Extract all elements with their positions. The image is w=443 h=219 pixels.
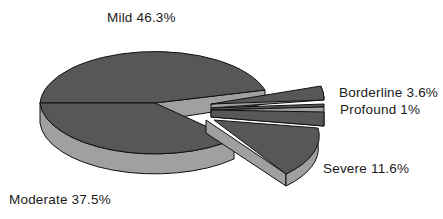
label-borderline: Borderline 3.6% bbox=[339, 85, 438, 100]
label-severe: Severe 11.6% bbox=[323, 161, 409, 176]
label-mild: Mild 46.3% bbox=[107, 10, 176, 25]
label-profound: Profound 1% bbox=[340, 102, 420, 117]
label-moderate: Moderate 37.5% bbox=[9, 192, 111, 207]
